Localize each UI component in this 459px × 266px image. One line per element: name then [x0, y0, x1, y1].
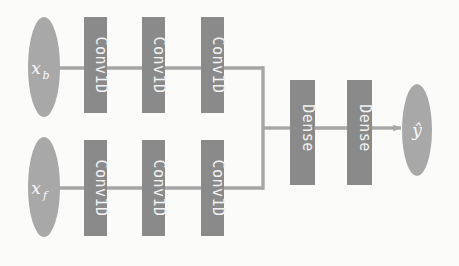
input-xf-label: x: [31, 178, 41, 198]
conv-top-1-label: Conv1D: [92, 36, 110, 93]
conv-bottom-2-label: Conv1D: [150, 159, 168, 216]
dense-2-label: Dense: [356, 104, 374, 152]
dense-1[interactable]: Dense: [290, 80, 317, 185]
conv-bottom-3-label: Conv1D: [209, 159, 227, 216]
conv-top-2-label: Conv1D: [150, 36, 168, 93]
conv-top-2[interactable]: Conv1D: [142, 17, 168, 113]
input-xb[interactable]: x b: [28, 17, 60, 117]
input-xb-label: x: [31, 58, 41, 78]
output-yhat[interactable]: ŷ: [402, 84, 432, 176]
input-nodes: x b x f: [28, 17, 60, 237]
conv-top-3[interactable]: Conv1D: [201, 17, 227, 113]
branch-top-layers: Conv1D Conv1D Conv1D: [84, 17, 227, 113]
head-layers: Dense Dense: [290, 80, 374, 185]
dense-2[interactable]: Dense: [347, 80, 374, 185]
input-xb-subscript: b: [42, 69, 49, 82]
output-yhat-label: ŷ: [411, 120, 422, 140]
input-xf[interactable]: x f: [28, 137, 60, 237]
conv-top-3-label: Conv1D: [209, 36, 227, 93]
dense-1-label: Dense: [299, 104, 317, 152]
diagram-canvas: x b x f Conv1D Conv1D Conv1D: [0, 0, 459, 266]
conv-bottom-2[interactable]: Conv1D: [142, 140, 168, 236]
architecture-diagram: x b x f Conv1D Conv1D Conv1D: [0, 0, 459, 266]
conv-bottom-1[interactable]: Conv1D: [84, 140, 110, 236]
conv-top-1[interactable]: Conv1D: [84, 17, 110, 113]
branch-bottom-layers: Conv1D Conv1D Conv1D: [84, 140, 227, 236]
conv-bottom-3[interactable]: Conv1D: [201, 140, 227, 236]
conv-bottom-1-label: Conv1D: [92, 159, 110, 216]
